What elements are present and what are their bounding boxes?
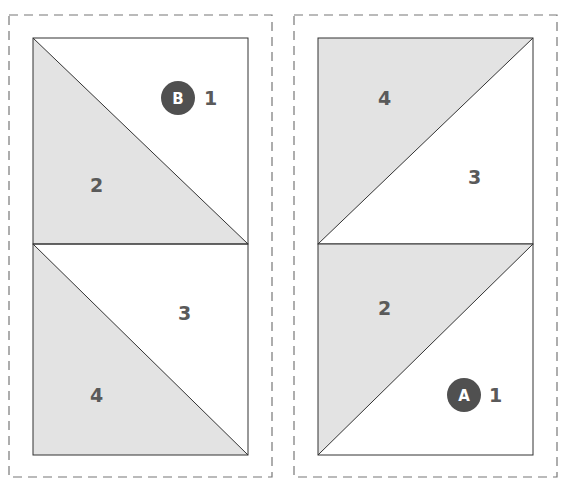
panel-b-diagram: B 1 2 3 4 (0, 0, 283, 482)
piece-label-2: 2 (378, 297, 391, 319)
badge-a-label: A (458, 387, 470, 405)
piece-label-1: 1 (204, 87, 217, 109)
panel-a: 4 3 2 A 1 (283, 0, 566, 482)
piece-label-3: 3 (468, 166, 481, 188)
piece-label-3: 3 (178, 302, 191, 324)
panel-b: B 1 2 3 4 (0, 0, 283, 482)
badge-b-label: B (172, 90, 183, 108)
piece-label-1: 1 (489, 384, 502, 406)
piece-label-4: 4 (378, 87, 391, 109)
piece-label-2: 2 (90, 174, 103, 196)
panel-a-diagram: 4 3 2 A 1 (283, 0, 566, 482)
piece-label-4: 4 (90, 384, 103, 406)
